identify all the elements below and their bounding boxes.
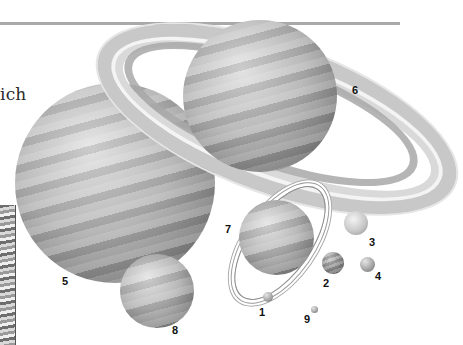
planet-6-saturn	[183, 20, 337, 172]
label-2: 2	[323, 277, 329, 289]
label-3: 3	[369, 236, 375, 248]
planet-8-neptune	[120, 254, 194, 328]
planet-4-mars	[360, 257, 375, 272]
planet-7-uranus	[239, 200, 314, 275]
planet-3-earth	[344, 211, 368, 235]
body-text-fragment: ich	[0, 84, 27, 104]
planet-9-pluto	[311, 306, 318, 313]
label-1: 1	[259, 306, 265, 318]
label-5: 5	[62, 275, 68, 287]
planet-1-mercury	[263, 292, 273, 302]
label-9: 9	[304, 313, 310, 325]
label-7: 7	[225, 223, 231, 235]
photo-edge	[0, 205, 16, 345]
label-4: 4	[375, 270, 381, 282]
label-6: 6	[352, 84, 358, 96]
label-8: 8	[172, 324, 178, 336]
planet-2-venus	[322, 252, 344, 274]
